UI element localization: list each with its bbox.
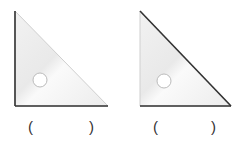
answer-close-paren-1: ) xyxy=(89,119,94,135)
set-square-2 xyxy=(140,11,231,106)
hole-circle xyxy=(33,73,47,87)
answer-close-paren-2: ) xyxy=(211,119,216,135)
set-square-1 xyxy=(15,11,108,106)
hole-circle xyxy=(157,74,171,88)
answer-open-paren-1: ( xyxy=(28,119,33,135)
figures-canvas xyxy=(0,0,241,144)
answer-open-paren-2: ( xyxy=(153,119,158,135)
